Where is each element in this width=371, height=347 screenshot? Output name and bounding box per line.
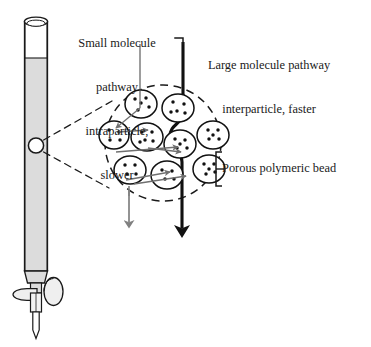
small-molecule-label-line2: pathway bbox=[58, 80, 176, 95]
column-magnified-spot bbox=[28, 138, 43, 153]
large-molecule-label-line1: Large molecule pathway bbox=[179, 58, 359, 73]
column-packed-bed bbox=[25, 58, 46, 270]
large-molecule-label: Large molecule pathway interparticle, fa… bbox=[179, 29, 359, 146]
large-molecule-label-line2: interparticle, faster bbox=[179, 102, 359, 117]
bead-pore-dot bbox=[207, 167, 211, 171]
small-molecule-label: Small molecule pathway intraparticle, sl… bbox=[58, 7, 176, 212]
small-molecule-label-line1: Small molecule bbox=[58, 36, 176, 51]
small-molecule-label-line3: intraparticle, bbox=[58, 124, 176, 139]
bead-pore-dot bbox=[204, 172, 208, 176]
bead-pore-dot bbox=[212, 162, 216, 166]
column-taper bbox=[25, 271, 48, 283]
column-rim-inner bbox=[27, 20, 45, 26]
figure-canvas: Small molecule pathway intraparticle, sl… bbox=[0, 0, 371, 347]
bead-pore-dot bbox=[185, 146, 189, 150]
bead-pore-dot bbox=[202, 162, 206, 166]
porous-bead-label: Porous polymeric bead bbox=[222, 161, 336, 176]
chromatography-column bbox=[13, 17, 63, 338]
small-molecule-label-line4: slower bbox=[58, 168, 176, 183]
column-outlet-tip bbox=[33, 312, 39, 339]
